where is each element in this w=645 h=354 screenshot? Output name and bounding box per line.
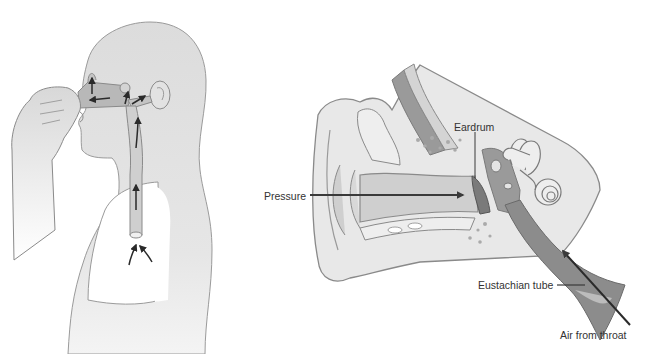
air-from-throat-label: Air from throat — [560, 329, 627, 341]
figure: Eardrum Pressure Eustachian tube Air fro… — [0, 0, 645, 354]
eustachian-tube-label: Eustachian tube — [478, 279, 553, 291]
ear-cross-section — [310, 64, 630, 340]
eardrum-label: Eardrum — [454, 121, 494, 133]
person-illustration — [12, 22, 212, 354]
ear — [150, 81, 170, 109]
pressure-label: Pressure — [264, 190, 306, 202]
